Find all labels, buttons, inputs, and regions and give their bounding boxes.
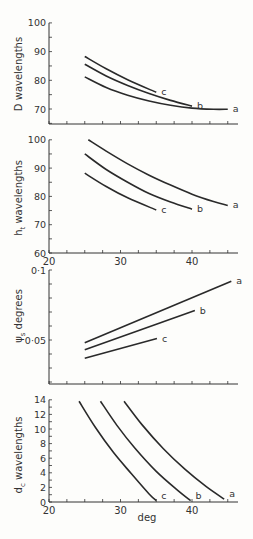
panel-3: 0·050·1abc — [25, 265, 242, 385]
x-tick-label: 20 — [43, 505, 56, 516]
y-tick-label: 100 — [28, 17, 46, 28]
series-c-line — [85, 56, 157, 92]
y-tick-label: 0·05 — [25, 335, 46, 346]
series-b-label: b — [197, 203, 203, 214]
series-b-line — [100, 401, 190, 500]
series-c-label: c — [161, 490, 166, 501]
y-tick-label: 70 — [34, 219, 46, 230]
y-tick-label: 12 — [34, 409, 46, 420]
y-tick-label: 14 — [34, 394, 46, 405]
series-c-line — [85, 339, 157, 359]
figure: 708090100abc60708090100203040abc0·050·1a… — [0, 0, 253, 539]
x-axis-label: deg — [138, 512, 157, 523]
y-tick-label: 10 — [34, 424, 46, 435]
y-tick-label: 2 — [40, 482, 46, 493]
series-a-line — [85, 281, 232, 343]
panel-4: 02468101214203040abc — [34, 394, 238, 516]
panel1-ylabel: D wavelengths — [13, 37, 24, 111]
y-tick-label: 8 — [40, 438, 46, 449]
y-tick-label: 100 — [28, 134, 46, 145]
series-b-label: b — [197, 100, 203, 111]
x-tick-label: 40 — [186, 505, 199, 516]
series-b-label: b — [196, 490, 202, 501]
series-c-label: c — [161, 204, 166, 215]
y-tick-label: 80 — [34, 191, 46, 202]
x-tick-label: 40 — [186, 256, 199, 267]
series-a-line — [124, 401, 224, 499]
y-tick-label: 0·1 — [31, 265, 46, 276]
y-tick-label: 80 — [34, 75, 46, 86]
series-a-label: a — [229, 488, 235, 499]
series-c-line — [79, 401, 156, 500]
series-a-label: a — [233, 199, 239, 210]
x-tick-label: 30 — [114, 505, 127, 516]
series-b-label: b — [200, 305, 206, 316]
panel-1: 708090100abc — [28, 17, 239, 124]
series-c-label: c — [162, 333, 167, 344]
y-tick-label: 70 — [34, 104, 46, 115]
panel-2: 60708090100203040abc — [28, 134, 239, 267]
x-tick-label: 30 — [114, 256, 127, 267]
y-tick-label: 6 — [40, 453, 46, 464]
series-c-label: c — [161, 86, 166, 97]
panel4-ylabel: dc wavelengths — [13, 417, 27, 494]
series-a-line — [88, 140, 227, 206]
panel2-ylabel: ht wavelengths — [13, 160, 27, 236]
series-a-label: a — [236, 275, 242, 286]
y-tick-label: 90 — [34, 46, 46, 57]
panel3-ylabel: ψs degrees — [13, 289, 27, 343]
series-a-line — [85, 77, 228, 110]
series-b-line — [85, 154, 192, 209]
series-a-label: a — [233, 103, 239, 114]
y-tick-label: 4 — [40, 467, 46, 478]
y-tick-label: 90 — [34, 163, 46, 174]
